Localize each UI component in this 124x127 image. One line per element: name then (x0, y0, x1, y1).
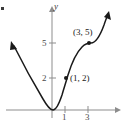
x-tick-label-3: 3 (85, 113, 90, 122)
y-tick-label-5: 5 (42, 39, 47, 48)
y-axis-label: y (54, 2, 58, 11)
y-tick-label-2: 2 (42, 74, 47, 83)
point-label-3-5: (3, 5) (73, 28, 93, 37)
function-curve (14, 17, 107, 110)
x-axis-arrowhead (115, 107, 121, 113)
x-tick-label-1: 1 (62, 113, 67, 122)
corner-speck (1, 7, 4, 10)
graph-canvas (0, 0, 124, 127)
curve-left-arrowhead (10, 41, 17, 50)
curve-right-arrowhead (104, 11, 111, 20)
point-marker-1-2 (64, 76, 68, 80)
figure-container: y 1 3 2 5 (1, 2) (3, 5) (0, 0, 124, 127)
point-label-1-2: (1, 2) (70, 74, 90, 83)
point-marker-3-5 (87, 41, 91, 45)
